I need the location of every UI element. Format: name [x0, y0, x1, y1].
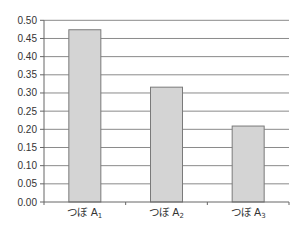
y-tick-label: 0.30: [18, 87, 38, 98]
x-category-label: つぼ A3: [231, 206, 266, 220]
y-tick-label: 0.25: [18, 106, 38, 117]
y-tick-label: 0.15: [18, 142, 38, 153]
y-axis: 0.000.050.100.150.200.250.300.350.400.45…: [18, 15, 44, 208]
bar: [69, 30, 101, 202]
bar-chart: 0.000.050.100.150.200.250.300.350.400.45…: [0, 0, 307, 230]
y-tick-label: 0.40: [18, 51, 38, 62]
bar: [151, 87, 183, 202]
x-axis: つぼ A1つぼ A2つぼ A3: [44, 202, 289, 220]
bars: [69, 30, 264, 202]
y-tick-label: 0.50: [18, 15, 38, 26]
x-category-label: つぼ A1: [67, 206, 102, 220]
y-tick-label: 0.05: [18, 178, 38, 189]
y-tick-label: 0.35: [18, 69, 38, 80]
y-tick-label: 0.10: [18, 160, 38, 171]
bar: [232, 126, 264, 202]
y-tick-label: 0.00: [18, 197, 38, 208]
x-category-label: つぼ A2: [149, 206, 184, 220]
y-tick-label: 0.45: [18, 33, 38, 44]
y-tick-label: 0.20: [18, 124, 38, 135]
